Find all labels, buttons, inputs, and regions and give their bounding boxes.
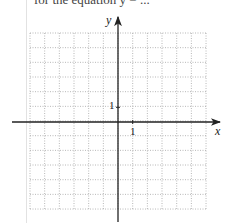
y-tick-label: 1 (109, 100, 115, 111)
x-tick-label: 1 (130, 126, 136, 137)
y-axis-label: y (106, 14, 111, 26)
x-axis-label: x (215, 125, 220, 137)
coordinate-plane (0, 0, 234, 223)
